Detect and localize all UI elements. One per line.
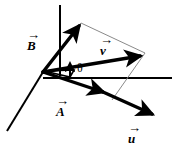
depth-axis xyxy=(7,72,43,131)
vector-u-shaft xyxy=(103,92,152,114)
vector-u-label: → u xyxy=(128,124,141,145)
vector-v-label: → v xyxy=(100,36,113,57)
parallelogram-line-top xyxy=(81,23,145,53)
angle-theta-label: θ xyxy=(77,62,83,74)
vector-diagram-figure: → B → A → v → u θ xyxy=(0,0,173,148)
vector-B-label: → B xyxy=(27,31,40,52)
vector-A-label: → A xyxy=(56,97,69,118)
vector-diagram-canvas xyxy=(0,0,173,148)
vector-v-shaft xyxy=(43,56,140,72)
angle-theta-text: θ xyxy=(77,62,83,74)
vector-A-shaft xyxy=(43,72,103,92)
